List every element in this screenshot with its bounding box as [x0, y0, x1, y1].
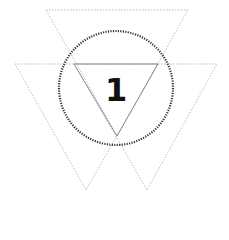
number-label: 1	[105, 74, 127, 106]
right-dotted-triangle	[74, 64, 217, 190]
left-dotted-triangle	[15, 64, 158, 190]
